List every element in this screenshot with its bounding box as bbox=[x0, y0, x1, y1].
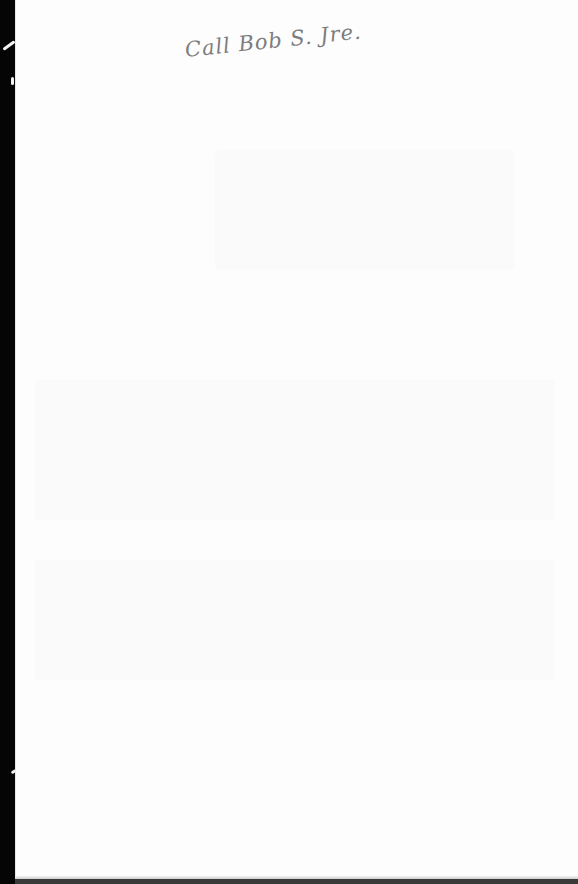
margin-mark bbox=[11, 77, 14, 85]
scanner-edge-left bbox=[0, 0, 16, 884]
document-page bbox=[15, 0, 578, 879]
show-through-text-region bbox=[35, 380, 555, 520]
show-through-text-region bbox=[35, 560, 555, 680]
show-through-text-region bbox=[215, 150, 515, 270]
scanner-edge-bottom bbox=[15, 879, 578, 884]
